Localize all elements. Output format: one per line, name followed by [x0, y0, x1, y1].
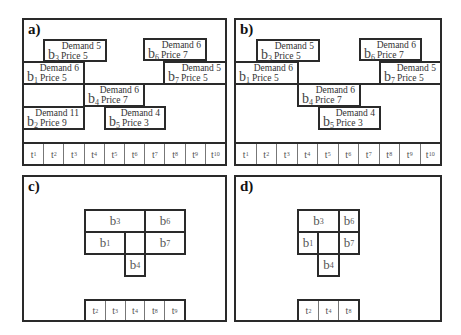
block-b4: b4: [124, 253, 146, 277]
block-b7: b7: [338, 231, 360, 255]
timeslot-t6: t6: [339, 144, 360, 164]
timeslot-t1: t1: [236, 144, 257, 164]
timeslot-t6: t6: [125, 144, 145, 164]
timeslot-row: t1 t2 t3 t4 t5 t6 t7 t8 t9 t10: [236, 142, 440, 164]
timeslot-t2: t2: [257, 144, 278, 164]
block-b3: b3: [84, 209, 146, 233]
timeslot-row: t2 t4 t8: [297, 299, 360, 320]
panel-label: c): [28, 178, 40, 195]
block-price: Price 9: [40, 118, 67, 128]
block-demand: Demand 6: [100, 85, 139, 95]
timeslot-t2: t2: [299, 301, 319, 320]
block-price: Price 7: [315, 95, 342, 105]
block-name: b7: [168, 69, 179, 85]
block-b1: b1 Demand 6 Price 5: [22, 61, 85, 85]
timeslot-row: t1 t2 t3 t4 t5 t6 t7 t8 t9 t10: [24, 142, 225, 164]
block-price: Price 3: [122, 118, 149, 128]
block-b1: b1: [84, 231, 126, 255]
block-demand: Demand 5: [62, 41, 101, 51]
block-price: Price 3: [336, 118, 363, 128]
timeslot-t4: t4: [319, 301, 339, 320]
block-demand: Demand 6: [254, 63, 293, 73]
timeslot-t3: t3: [64, 144, 84, 164]
panel-label: b): [240, 21, 253, 38]
block-demand: Demand 4: [121, 108, 160, 118]
timeslot-t10: t10: [421, 144, 441, 164]
block-demand: Demand 5: [182, 63, 221, 73]
block-name: b7: [384, 69, 395, 85]
timeslot-t3: t3: [277, 144, 298, 164]
block-name: b4: [88, 91, 99, 107]
empty-cell: [317, 231, 340, 255]
block-b5: b5 Demand 4 Price 3: [104, 106, 166, 130]
block-name: b6: [148, 46, 159, 62]
timeslot-t8: t8: [380, 144, 401, 164]
block-b3: b3: [297, 209, 340, 233]
block-price: Price 5: [181, 73, 208, 83]
block-b3: b3 Demand 5 Price 5: [43, 39, 107, 62]
block-price: Price 7: [161, 50, 188, 60]
block-b6: b6 Demand 6 Price 7: [359, 38, 422, 61]
panel-c: c) b3 b6 b1 b7 b4 t2 t3 t4 t8 t9: [22, 175, 227, 322]
block-b6: b6: [144, 209, 186, 233]
timeslot-t4: t4: [298, 144, 319, 164]
block-name: b6: [364, 46, 375, 62]
block-price: Price 7: [377, 50, 404, 60]
timeslot-t9: t9: [186, 144, 206, 164]
block-name: b1: [239, 69, 250, 85]
block-name: b5: [109, 114, 120, 130]
panel-label: d): [240, 178, 253, 195]
timeslot-t5: t5: [105, 144, 125, 164]
timeslot-t5: t5: [318, 144, 339, 164]
block-b3: b3 Demand 5 Price 5: [256, 39, 320, 62]
block-demand: Demand 6: [40, 63, 79, 73]
block-b4: b4 Demand 6 Price 7: [297, 83, 361, 107]
timeslot-row: t2 t3 t4 t8 t9: [84, 299, 186, 320]
block-demand: Demand 4: [336, 108, 375, 118]
timeslot-t10: t10: [206, 144, 225, 164]
panel-d: d) b3 b6 b1 b7 b4 t2 t4 t8: [234, 175, 442, 322]
block-name: b1: [27, 69, 38, 85]
panel-b: b) b3 Demand 5 Price 5 b6 Demand 6 Price…: [234, 18, 442, 166]
block-price: Price 5: [397, 73, 424, 83]
block-price: Price 7: [101, 95, 128, 105]
block-price: Price 5: [274, 51, 301, 61]
timeslot-t9: t9: [400, 144, 421, 164]
block-demand: Demand 5: [397, 63, 436, 73]
block-b1: b1: [297, 231, 319, 255]
block-demand: Demand 6: [316, 85, 355, 95]
block-b4: b4: [317, 253, 340, 277]
timeslot-t3: t3: [106, 301, 126, 320]
timeslot-t4: t4: [126, 301, 146, 320]
panel-label: a): [28, 21, 41, 38]
block-b5: b5 Demand 4 Price 3: [318, 106, 381, 130]
block-price: Price 5: [61, 51, 88, 61]
panel-a: a) b3 Demand 5 Price 5 b6 Demand 6 Price…: [22, 18, 227, 166]
block-price: Price 5: [40, 73, 67, 83]
block-name: b5: [323, 114, 334, 130]
timeslot-t2: t2: [44, 144, 64, 164]
block-b7: b7 Demand 5 Price 5: [379, 61, 442, 85]
timeslot-t1: t1: [24, 144, 44, 164]
timeslot-t8: t8: [165, 144, 185, 164]
block-b7: b7: [144, 231, 186, 255]
block-b4: b4 Demand 6 Price 7: [83, 83, 145, 107]
block-b2: b2 Demand 11 Price 9: [22, 106, 85, 130]
timeslot-t8: t8: [339, 301, 358, 320]
block-b6: b6: [338, 209, 360, 233]
block-b7: b7 Demand 5 Price 5: [163, 61, 227, 85]
timeslot-t4: t4: [85, 144, 105, 164]
timeslot-t8: t8: [145, 301, 165, 320]
empty-cell: [124, 231, 146, 255]
timeslot-t9: t9: [165, 301, 184, 320]
block-demand: Demand 6: [162, 40, 201, 50]
block-demand: Demand 6: [377, 40, 416, 50]
block-price: Price 5: [252, 73, 279, 83]
block-demand: Demand 11: [35, 108, 79, 118]
timeslot-t2: t2: [86, 301, 106, 320]
timeslot-t7: t7: [359, 144, 380, 164]
timeslot-t7: t7: [145, 144, 165, 164]
block-b1: b1 Demand 6 Price 5: [234, 61, 299, 85]
block-b6: b6 Demand 6 Price 7: [143, 38, 207, 61]
block-name: b4: [302, 91, 313, 107]
